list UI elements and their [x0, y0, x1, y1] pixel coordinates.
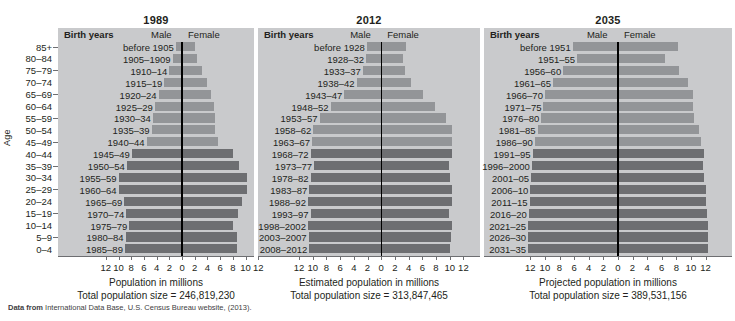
- male-bar: [344, 90, 381, 99]
- female-bar: [381, 232, 451, 241]
- x-tick-label: 4: [205, 262, 210, 273]
- male-bar: [528, 221, 618, 230]
- birth-years-label: 1905–1909: [123, 54, 171, 65]
- pyramid-row: 1943–47: [258, 90, 480, 102]
- total-population-label: Total population size = 246,819,230: [58, 289, 254, 302]
- x-tick: [195, 256, 196, 260]
- male-bar: [563, 66, 618, 75]
- x-tick-label: 12: [700, 262, 711, 273]
- female-bar: [381, 149, 452, 158]
- male-bar: [308, 221, 381, 230]
- age-group-label: 50–54: [26, 125, 52, 136]
- x-tick-label: 12: [458, 262, 469, 273]
- x-tick: [220, 256, 221, 260]
- age-group-label: 60–64: [26, 101, 52, 112]
- birth-years-label: 1958–62: [274, 125, 311, 136]
- birth-years-label: 2021–25: [489, 221, 526, 232]
- x-tick: [207, 256, 208, 260]
- x-tick: [381, 256, 382, 260]
- pyramid-row: 1998–2002: [258, 221, 480, 233]
- total-population-label: Total population size = 313,847,465: [258, 289, 480, 302]
- pyramid-row: 1983–87: [258, 185, 480, 197]
- x-tick-label: 12: [101, 262, 112, 273]
- x-tick-label: 6: [141, 262, 146, 273]
- x-tick: [589, 256, 590, 260]
- pyramid-row: 1938–42: [258, 78, 480, 90]
- male-bar: [331, 102, 382, 111]
- female-bar: [182, 161, 239, 170]
- panel-title: 1989: [58, 14, 254, 26]
- birth-years-label: 1951–55: [538, 54, 575, 65]
- x-tick-label: 8: [230, 262, 235, 273]
- male-bar: [132, 149, 182, 158]
- birth-years-label: 1973–77: [275, 161, 312, 172]
- x-tick: [326, 256, 327, 260]
- birth-years-label: 2003–2007: [259, 232, 307, 243]
- x-tick: [530, 256, 531, 260]
- birth-years-label: 2016–20: [490, 209, 527, 220]
- birth-years-header: Birth years: [64, 29, 114, 40]
- age-group-label: 35–39: [26, 161, 52, 172]
- male-bar: [545, 90, 618, 99]
- pyramid-row: 1973–77: [258, 161, 480, 173]
- age-group-label: 20–24: [26, 196, 52, 207]
- x-tick: [545, 256, 546, 260]
- birth-years-label: 1933–37: [324, 66, 361, 77]
- male-bar: [311, 173, 382, 182]
- birth-years-label: 1980–84: [87, 232, 124, 243]
- female-bar: [618, 125, 699, 134]
- male-bar: [119, 173, 183, 182]
- male-legend-label: Male: [350, 29, 371, 40]
- pyramid-row: before 1951: [484, 42, 732, 54]
- female-bar: [381, 90, 423, 99]
- pyramid-row: before 1905: [58, 42, 254, 54]
- female-bar: [618, 102, 693, 111]
- total-population-label: Total population size = 389,531,156: [484, 289, 732, 302]
- birth-years-label: 1950–54: [88, 161, 125, 172]
- male-legend-label: Male: [587, 29, 608, 40]
- column-headers: Birth yearsMaleFemale: [258, 28, 480, 42]
- birth-years-header: Birth years: [490, 29, 540, 40]
- male-bar: [312, 137, 381, 146]
- pyramid-row: 1948–52: [258, 102, 480, 114]
- pyramid-row: 2031–35: [484, 244, 732, 256]
- female-bar: [182, 42, 195, 51]
- pyramid-row: 1905–1909: [58, 54, 254, 66]
- pyramid-row: 1930–34: [58, 113, 254, 125]
- x-tick: [603, 256, 604, 260]
- axis-caption-label: Estimated population in millions: [258, 276, 480, 289]
- male-bar: [308, 197, 381, 206]
- x-tick-label: 2: [392, 262, 397, 273]
- male-bar: [164, 78, 182, 87]
- birth-years-label: 1971–75: [504, 102, 541, 113]
- birth-years-label: 1986–90: [496, 137, 533, 148]
- pyramid-row: 1985–89: [58, 244, 254, 256]
- x-tick: [560, 256, 561, 260]
- birth-years-label: 2001–05: [492, 173, 529, 184]
- panel-caption: Estimated population in millionsTotal po…: [258, 276, 480, 302]
- male-bar: [119, 185, 183, 194]
- male-bar: [124, 197, 182, 206]
- pyramid-row: 1978–82: [258, 173, 480, 185]
- birth-years-label: 1981–85: [499, 125, 536, 136]
- female-bar: [381, 197, 452, 206]
- female-bar: [182, 66, 202, 75]
- population-pyramid-figure: Age 85+80–8475–7970–7465–6960–6455–5950–…: [0, 0, 735, 321]
- birth-years-label: 2006–10: [491, 185, 528, 196]
- pyramid-row: 1965–69: [58, 197, 254, 209]
- x-tick-label: 6: [218, 262, 223, 273]
- birth-years-label: 2008–2012: [260, 244, 308, 255]
- pyramid-row: 1971–75: [484, 102, 732, 114]
- birth-years-header: Birth years: [264, 29, 314, 40]
- x-tick: [395, 256, 396, 260]
- birth-years-label: 1910–14: [130, 66, 167, 77]
- x-tick-label: 10: [540, 262, 551, 273]
- male-bar: [309, 232, 382, 241]
- x-tick: [676, 256, 677, 260]
- birth-years-label: 1945–49: [93, 149, 130, 160]
- birth-years-label: 1935–39: [113, 125, 150, 136]
- pyramid-rows: before 19051905–19091910–141915–191920–2…: [58, 42, 254, 256]
- x-tick-label: 6: [659, 262, 664, 273]
- x-tick-label: 0: [379, 262, 384, 273]
- female-bar: [618, 149, 704, 158]
